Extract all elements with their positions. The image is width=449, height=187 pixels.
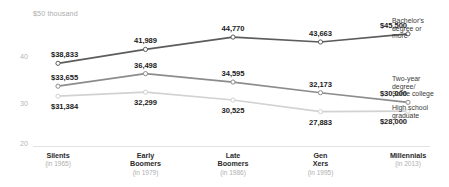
data-value-label: 30,525 (0, 106, 449, 115)
data-value-label: $38,833 (51, 50, 78, 59)
legend-twoyear-line1: Two-year (392, 75, 434, 83)
category-name-line: Boomers (114, 160, 178, 168)
data-point-marker[interactable] (143, 47, 147, 51)
data-value-label: $28,000 (0, 117, 407, 126)
legend-item-highschool: High school graduate (392, 104, 428, 119)
x-axis-category-label: Millennials(in 2013) (376, 152, 440, 168)
chart-container: $50 thousand 40 30 20 $38,83341,98944,77… (0, 0, 449, 187)
legend-highschool-line2: graduate (392, 112, 428, 120)
category-name-line: Xers (289, 160, 353, 168)
legend-bachelors-line3: more (392, 32, 424, 40)
category-name-line: Millennials (376, 152, 440, 160)
category-year: (in 1995) (289, 169, 353, 177)
x-axis-category-label: Silents(in 1965) (26, 152, 90, 168)
category-name-line: Silents (26, 152, 90, 160)
legend-item-twoyear: Two-year degree/ Some college (392, 75, 434, 98)
legend-item-bachelors: Bachelor's degree or more (392, 17, 424, 40)
category-year: (in 1986) (201, 169, 265, 177)
category-year: (in 1979) (114, 169, 178, 177)
data-value-label: $45,500 (0, 21, 407, 30)
legend-highschool-line1: High school (392, 104, 428, 112)
x-axis-category-label: GenXers(in 1995) (289, 152, 353, 177)
legend-twoyear-line3: Some college (392, 90, 434, 98)
x-axis-category-label: EarlyBoomers(in 1979) (114, 152, 178, 177)
category-year: (in 1965) (26, 160, 90, 168)
legend-twoyear-line2: degree/ (392, 83, 434, 91)
data-point-marker[interactable] (318, 40, 322, 44)
category-name-line: Boomers (201, 160, 265, 168)
legend-bachelors-line1: Bachelor's (392, 17, 424, 25)
category-year: (in 2013) (376, 160, 440, 168)
data-value-label: $30,000 (0, 89, 407, 98)
plot-area: $50 thousand 40 30 20 $38,83341,98944,77… (0, 0, 449, 187)
data-value-label: 43,663 (0, 29, 449, 38)
legend-bachelors-line2: degree or (392, 25, 424, 33)
data-value-label: 32,173 (0, 80, 449, 89)
data-value-label: 34,595 (0, 69, 449, 78)
x-axis-category-label: LateBoomers(in 1986) (201, 152, 265, 177)
